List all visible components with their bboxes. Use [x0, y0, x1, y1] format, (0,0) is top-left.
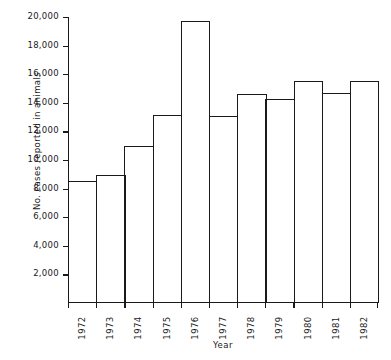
bar-1976 [181, 21, 210, 303]
y-tick-label: 4,000 [33, 240, 59, 250]
bar-1974 [124, 146, 153, 303]
y-tick-label: 16,000 [27, 68, 59, 78]
y-tick-label: 14,000 [27, 97, 59, 107]
bar-1972 [68, 181, 97, 303]
bar-1973 [96, 175, 125, 303]
x-tick [293, 303, 294, 308]
bar-1975 [153, 115, 182, 303]
y-tick-label: 10,000 [27, 154, 59, 164]
bar-1980 [294, 81, 323, 303]
bar-1979 [265, 99, 294, 303]
x-tick [377, 303, 378, 308]
x-tick [124, 303, 125, 308]
y-tick-label: 8,000 [33, 183, 59, 193]
y-tick-label: 6,000 [33, 211, 59, 221]
x-tick [153, 303, 154, 308]
x-tick [209, 303, 210, 308]
bar-chart: No. cases reported in animals 2,0004,000… [0, 0, 391, 360]
x-tick [265, 303, 266, 308]
x-tick [322, 303, 323, 308]
bar-series [68, 17, 378, 303]
x-tick [181, 303, 182, 308]
y-tick-label: 20,000 [27, 11, 59, 21]
bar-1977 [209, 116, 238, 303]
bar-1978 [237, 94, 266, 303]
x-tick [96, 303, 97, 308]
plot-area: 2,0004,0006,0008,00010,00012,00014,00016… [68, 17, 378, 303]
y-tick-label: 18,000 [27, 40, 59, 50]
y-tick-label: 12,000 [27, 125, 59, 135]
x-tick [350, 303, 351, 308]
x-tick [237, 303, 238, 308]
y-tick-label: 2,000 [33, 268, 59, 278]
x-tick [68, 303, 69, 308]
bar-1982 [350, 81, 379, 303]
bar-1981 [322, 93, 351, 303]
x-axis-title: Year [68, 340, 378, 350]
